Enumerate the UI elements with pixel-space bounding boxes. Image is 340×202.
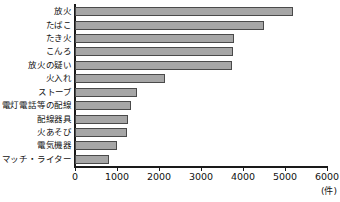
category-label: こんろ xyxy=(0,47,72,56)
x-tick-label: 4000 xyxy=(231,171,255,182)
category-label: 放火の疑い xyxy=(0,61,72,70)
x-tick-mark xyxy=(159,167,160,171)
x-tick-label: 6000 xyxy=(315,171,339,182)
bar xyxy=(75,34,234,43)
bar xyxy=(75,101,131,110)
x-tick-mark xyxy=(285,167,286,171)
x-tick-mark xyxy=(243,167,244,171)
x-tick-label: 0 xyxy=(72,171,78,182)
bar xyxy=(75,128,127,137)
bar xyxy=(75,21,264,30)
bar-row xyxy=(75,5,293,18)
plot-area xyxy=(75,5,327,166)
bar-row xyxy=(75,59,232,72)
x-tick-mark xyxy=(75,167,76,171)
bar-row xyxy=(75,126,127,139)
category-label: 電気機器 xyxy=(0,141,72,150)
x-tick-label: 2000 xyxy=(147,171,171,182)
category-label: たき火 xyxy=(0,34,72,43)
category-label: 電灯電話等の配線 xyxy=(0,101,72,110)
bar-row xyxy=(75,112,128,125)
category-label: 火入れ xyxy=(0,74,72,83)
bar-row xyxy=(75,45,233,58)
category-label: 放火 xyxy=(0,7,72,16)
bar xyxy=(75,141,117,150)
bar xyxy=(75,61,232,70)
bar-row xyxy=(75,86,137,99)
bar-chart: 放火たばこたき火こんろ放火の疑い火入れストーブ電灯電話等の配線配線器具火あそび電… xyxy=(0,0,340,202)
category-label: ストーブ xyxy=(0,88,72,97)
category-axis-labels: 放火たばこたき火こんろ放火の疑い火入れストーブ電灯電話等の配線配線器具火あそび電… xyxy=(0,5,72,166)
x-tick-label: 1000 xyxy=(105,171,129,182)
bar-series xyxy=(75,5,327,166)
bar-row xyxy=(75,153,109,166)
bar xyxy=(75,115,128,124)
bar-row xyxy=(75,72,165,85)
x-tick-label: 5000 xyxy=(273,171,297,182)
bar xyxy=(75,74,165,83)
bar xyxy=(75,155,109,164)
category-label: 配線器具 xyxy=(0,115,72,124)
x-axis-ticks: 0100020003000400050006000 xyxy=(75,167,327,189)
x-axis-unit-label: (件) xyxy=(321,186,337,197)
bar xyxy=(75,7,293,16)
bar-row xyxy=(75,32,234,45)
bar xyxy=(75,88,137,97)
x-tick-mark xyxy=(327,167,328,171)
category-label: 火あそび xyxy=(0,128,72,137)
bar-row xyxy=(75,139,117,152)
bar xyxy=(75,47,233,56)
category-label: たばこ xyxy=(0,21,72,30)
bar-row xyxy=(75,99,131,112)
x-tick-label: 3000 xyxy=(189,171,213,182)
bar-row xyxy=(75,18,264,31)
x-tick-mark xyxy=(117,167,118,171)
category-label: マッチ・ライター xyxy=(0,155,72,164)
x-tick-mark xyxy=(201,167,202,171)
